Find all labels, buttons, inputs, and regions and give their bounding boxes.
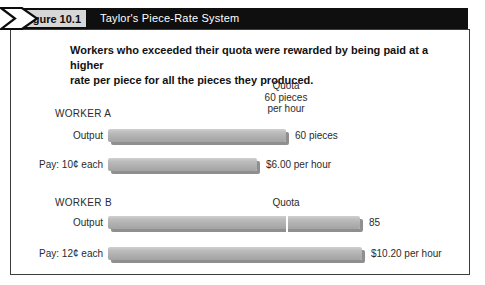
bar-value: 60 pieces [295,130,338,141]
worker-b-pay-row: Pay: 12¢ each $10.20 per hour [30,245,442,261]
worker-a-pay-row: Pay: 10¢ each $6.00 per hour [30,156,331,172]
quota-annotation-line-3: per hour [236,103,336,115]
figure-title-bar: Taylor's Piece-Rate System [88,8,468,29]
bar-label: Pay: 12¢ each [30,248,103,259]
bar-value: $10.20 per hour [371,248,442,259]
worker-a-output-row: Output 60 pieces [30,127,338,143]
figure-title: Taylor's Piece-Rate System [100,12,239,24]
bar-value: 85 [369,217,380,228]
chevron-icon [0,5,40,32]
bar-label: Output [30,217,103,228]
worker-a-pay-bar [108,158,257,171]
quota-annotation-line-1: Quota [236,80,336,92]
caption-line-1: Workers who exceeded their quota were re… [70,43,455,73]
bar-label: Pay: 10¢ each [30,159,103,170]
quota-marker-label: Quota [254,197,318,208]
bar-value: $6.00 per hour [266,159,331,170]
quota-annotation-line-2: 60 pieces [236,92,336,104]
quota-annotation: Quota 60 pieces per hour [236,80,336,115]
bar-label: Output [30,130,103,141]
worker-a-heading: WORKER A [55,108,111,119]
quota-tick [286,216,288,232]
worker-b-heading: WORKER B [55,197,112,208]
worker-a-output-bar [108,129,286,142]
worker-b-output-bar [108,216,360,229]
figure-panel: Workers who exceeded their quota were re… [0,0,485,285]
worker-b-pay-bar [108,247,362,260]
worker-b-output-row: Output 85 [30,214,380,230]
